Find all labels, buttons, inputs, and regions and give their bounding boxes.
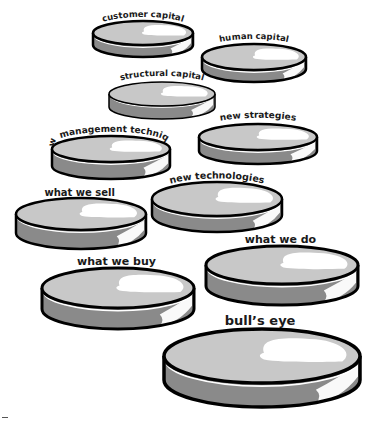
disk-what-we-buy: what we buy (42, 255, 194, 329)
corner-mark (2, 417, 8, 418)
disk-new-technologies: new technologies (152, 169, 282, 232)
disk-new-strategies: new strategies (199, 110, 317, 164)
diagram-canvas: customer capitalhuman capitalstructural … (0, 0, 374, 421)
disk-label-what-we-buy: what we buy (77, 255, 156, 268)
disk-label-structural-capital: structural capital (119, 68, 206, 83)
disk-customer-capital: customer capital (93, 9, 193, 57)
disk-diagram: customer capitalhuman capitalstructural … (0, 0, 374, 421)
disk-what-we-do: what we do (206, 233, 358, 305)
disk-label-new-strategies: new strategies (219, 110, 297, 123)
disk-label-what-we-do: what we do (245, 233, 317, 246)
disk-label-human-capital: human capital (218, 31, 290, 44)
disk-label-bulls-eye: bull’s eye (225, 313, 296, 328)
disk-label-what-we-sell: what we sell (44, 187, 114, 198)
disk-human-capital: human capital (202, 31, 306, 82)
disk-bulls-eye: bull’s eye (164, 313, 360, 407)
disk-what-we-sell: what we sell (16, 187, 146, 249)
disk-structural-capital: structural capital (109, 68, 215, 119)
